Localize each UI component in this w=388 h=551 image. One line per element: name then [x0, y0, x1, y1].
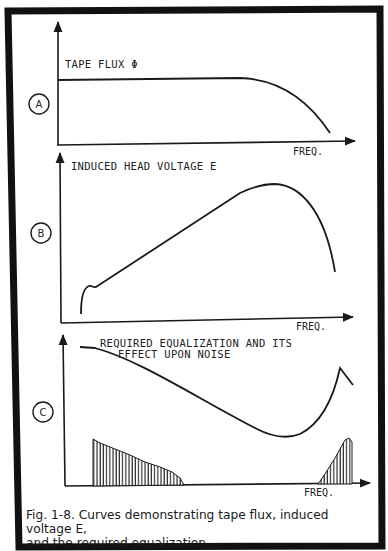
panel-b-voltage-curve — [81, 184, 335, 314]
panel-c-x-label: FREQ. — [304, 487, 334, 498]
panel-b-y-axis — [60, 153, 61, 323]
panel-a-x-label: FREQ. — [293, 146, 323, 157]
panel-a-flux-curve — [58, 78, 330, 133]
panel-c-title-line2: EFFECT UPON NOISE — [118, 348, 231, 360]
panel-b-title: INDUCED HEAD VOLTAGE E — [71, 160, 217, 172]
caption-line-1: Fig. 1-8. Curves demonstrating tape flux… — [26, 508, 376, 536]
caption-line-2: and the required equalization. — [26, 536, 376, 550]
panel-a-marker: A — [36, 99, 43, 110]
panel-a: TAPE FLUX Φ FREQ. A — [29, 22, 355, 157]
panel-c-low-noise-area — [93, 439, 184, 486]
panel-a-x-axis — [57, 141, 355, 145]
panel-c: REQUIRED EQUALIZATION AND ITS EFFECT UPO… — [33, 335, 370, 498]
figure-caption: Fig. 1-8. Curves demonstrating tape flux… — [26, 508, 376, 550]
panel-b: INDUCED HEAD VOLTAGE E FREQ. B — [31, 153, 353, 332]
panel-c-marker: C — [40, 407, 47, 418]
panel-b-marker: B — [38, 228, 45, 239]
panel-c-y-axis — [63, 335, 65, 486]
figure-canvas: TAPE FLUX Φ FREQ. A INDUCED HEAD VOLTAGE… — [0, 0, 388, 551]
panel-c-equalization-curve — [80, 347, 353, 437]
panel-c-high-noise-area — [318, 438, 352, 484]
panel-a-title: TAPE FLUX Φ — [65, 58, 138, 70]
panel-b-x-label: FREQ. — [296, 321, 326, 332]
